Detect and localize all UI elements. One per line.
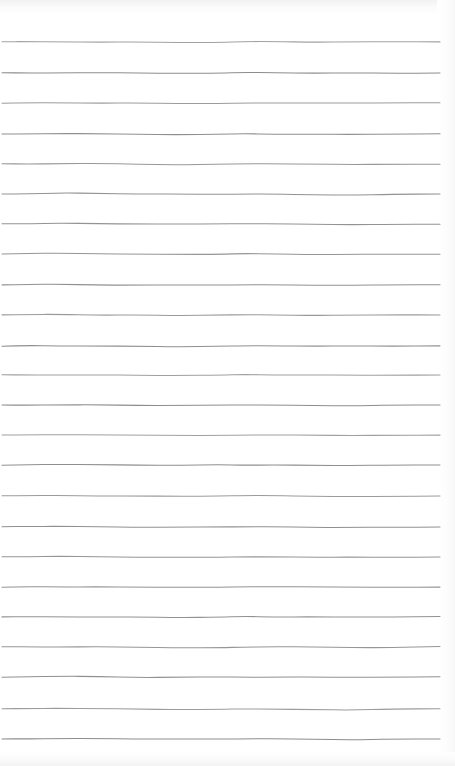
ruled-line bbox=[2, 587, 440, 588]
ruled-line bbox=[2, 223, 440, 224]
ruled-line bbox=[2, 556, 440, 557]
ruled-line bbox=[2, 496, 440, 497]
ruled-line bbox=[2, 134, 440, 135]
ruled-line bbox=[2, 193, 440, 195]
ruled-line bbox=[2, 646, 440, 647]
ruled-line bbox=[2, 73, 440, 74]
ruled-line bbox=[2, 738, 440, 739]
ruled-line bbox=[2, 526, 440, 527]
ruled-line bbox=[2, 375, 440, 376]
ruled-line bbox=[2, 405, 440, 406]
ruled-line bbox=[2, 163, 440, 164]
ruled-line bbox=[2, 435, 440, 436]
ruled-line bbox=[2, 708, 440, 710]
ruled-line bbox=[2, 617, 440, 618]
ruled-line bbox=[2, 676, 440, 677]
scanned-page bbox=[0, 0, 455, 766]
ruled-lines-group bbox=[0, 0, 455, 766]
ruled-line bbox=[2, 103, 440, 104]
ruled-line bbox=[2, 346, 440, 347]
ruled-line bbox=[2, 314, 440, 315]
ruled-line bbox=[2, 42, 440, 43]
ruled-line bbox=[2, 465, 440, 466]
ruled-line bbox=[2, 284, 440, 285]
ruled-line bbox=[2, 253, 440, 254]
